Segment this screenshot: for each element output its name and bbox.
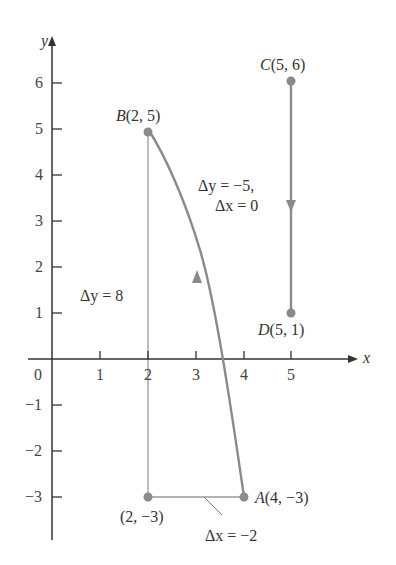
- point-a: [240, 493, 249, 502]
- y-tick-label: −2: [25, 443, 42, 459]
- delta-x-ab-label: Δx = −2: [205, 528, 257, 544]
- point-d-label: D(5, 1): [258, 322, 304, 338]
- x-tick-label: 3: [192, 367, 200, 383]
- y-tick-label: 5: [35, 121, 43, 137]
- x-axis-label: x: [363, 350, 370, 366]
- x-tick-label: 2: [144, 367, 152, 383]
- x-tick-label: 5: [287, 367, 295, 383]
- curve-direction-arrow-icon: [192, 270, 202, 283]
- x-axis-arrow-icon: [348, 355, 358, 363]
- coordinate-diagram: y x 0 1 2 3 4 5 6 5 4 3 2 1 −1 −2 −3 B(2…: [0, 0, 396, 565]
- x-tick-label: 0: [34, 367, 42, 383]
- x-axis-ticks: [100, 351, 291, 359]
- point-b-label: B(2, 5): [116, 108, 160, 124]
- delta-y-cd-label: Δy = −5,: [198, 178, 254, 194]
- x-tick-label: 1: [96, 367, 104, 383]
- y-tick-label: 4: [35, 167, 43, 183]
- y-tick-label: 1: [35, 305, 43, 321]
- point-c-label: C(5, 6): [260, 57, 305, 73]
- delta-x-leader-line: [204, 497, 222, 515]
- y-tick-label: −1: [25, 397, 42, 413]
- point-d: [287, 309, 296, 318]
- segment-direction-arrow-icon: [286, 200, 296, 212]
- y-tick-label: 3: [35, 213, 43, 229]
- delta-x-cd-label: Δx = 0: [215, 198, 258, 214]
- delta-y-ab-label: Δy = 8: [80, 288, 123, 304]
- y-tick-label: 6: [35, 75, 43, 91]
- point-corner-label: (2, −3): [120, 509, 164, 525]
- point-a-label: A(4, −3): [255, 490, 308, 506]
- y-tick-label: −3: [25, 489, 42, 505]
- point-c: [287, 77, 296, 86]
- diagram-graphics: [0, 0, 396, 565]
- y-tick-label: 2: [35, 259, 43, 275]
- y-axis-label: y: [41, 33, 48, 49]
- x-tick-label: 4: [240, 367, 248, 383]
- y-axis-arrow-icon: [48, 36, 56, 46]
- y-axis-ticks: [52, 83, 62, 497]
- point-b: [144, 128, 153, 137]
- point-corner: [144, 493, 153, 502]
